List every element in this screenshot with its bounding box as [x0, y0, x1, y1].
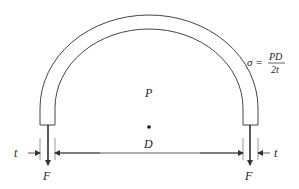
inner-wall — [55, 29, 243, 125]
force-label-right: F — [244, 169, 253, 183]
formula-numerator: PD — [268, 51, 283, 62]
center-point — [147, 125, 151, 129]
thin-wall-pressure-diagram: P D t t F F σ = PD 2t — [0, 0, 299, 189]
pressure-label: P — [144, 86, 153, 100]
diameter-label: D — [143, 137, 153, 151]
half-cylinder-shell — [40, 15, 258, 125]
thickness-label-right: t — [274, 146, 278, 160]
stress-formula: σ = PD 2t — [247, 51, 285, 75]
formula-lhs: σ = — [247, 56, 263, 68]
thickness-label-left: t — [14, 146, 18, 160]
force-label-left: F — [42, 169, 51, 183]
outer-wall — [40, 15, 258, 125]
formula-denominator: 2t — [271, 64, 279, 75]
